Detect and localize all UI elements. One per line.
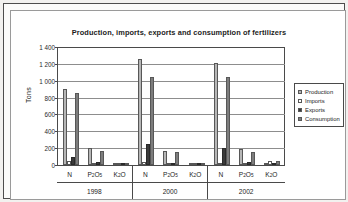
y-tick-label: 1 000 (39, 77, 55, 84)
category-label: K2O (107, 166, 132, 182)
category-label: N (133, 166, 158, 182)
bar-consumption (226, 77, 230, 166)
legend-label: Consumption (305, 116, 340, 122)
bar-group (184, 47, 209, 165)
y-tick-label: 400 (44, 128, 55, 135)
bar-group (83, 47, 108, 165)
chart-canvas: Production, imports, exports and consump… (10, 10, 346, 200)
bar-consumption (251, 152, 255, 165)
category-label: K2O (183, 166, 208, 182)
bar-group (260, 47, 285, 165)
bar-group (58, 47, 83, 165)
y-tick-label: 200 (44, 145, 55, 152)
bar-group (209, 47, 234, 165)
legend-swatch-icon (298, 108, 302, 112)
chart-title: Production, imports, exports and consump… (11, 28, 347, 37)
chart-legend: Production Imports Exports Consumption (294, 83, 344, 127)
year-axis: 199820002002 (57, 183, 285, 199)
category-label: N (208, 166, 233, 182)
bar-group (134, 47, 159, 165)
year-label: 2000 (133, 183, 209, 199)
category-label: P2O5 (158, 166, 183, 182)
year-label: 1998 (57, 183, 133, 199)
bar-production (214, 63, 218, 165)
bar-consumption (125, 163, 129, 165)
bar-production (63, 89, 67, 165)
bar-production (138, 59, 142, 165)
category-axis: NP2O5K2ONP2O5K2ONP2O5K2O (57, 166, 285, 183)
bar-consumption (201, 163, 205, 165)
plot-area: 1 4001 2001 0008006004002000 (57, 47, 285, 166)
category-label: K2O (259, 166, 284, 182)
bar-group (108, 47, 133, 165)
bar-consumption (100, 151, 104, 165)
bar-consumption (276, 161, 280, 165)
legend-item-consumption: Consumption (298, 114, 341, 123)
legend-swatch-icon (298, 117, 302, 121)
y-tick-label: 800 (44, 94, 55, 101)
legend-label: Exports (305, 107, 325, 113)
outer-border: Production, imports, exports and consump… (3, 3, 345, 199)
legend-label: Imports (305, 98, 325, 104)
bar-group (235, 47, 260, 165)
legend-swatch-icon (298, 90, 302, 94)
y-axis-title: Tons (25, 87, 32, 103)
bar-consumption (75, 93, 79, 165)
bar-group (159, 47, 184, 165)
y-tick-label: 600 (44, 111, 55, 118)
y-tick-label: 1 200 (39, 60, 55, 67)
bar-consumption (175, 152, 179, 165)
legend-item-production: Production (298, 87, 341, 96)
bars-layer (58, 47, 285, 165)
legend-item-exports: Exports (298, 105, 341, 114)
legend-swatch-icon (298, 99, 302, 103)
y-tick-label: 1 400 (39, 44, 55, 51)
chart-screenshot: Production, imports, exports and consump… (0, 0, 348, 202)
category-label: P2O5 (82, 166, 107, 182)
year-label: 2002 (208, 183, 284, 199)
bar-consumption (150, 77, 154, 166)
legend-item-imports: Imports (298, 96, 341, 105)
category-label: N (57, 166, 82, 182)
category-label: P2O5 (234, 166, 259, 182)
legend-label: Production (305, 89, 333, 95)
